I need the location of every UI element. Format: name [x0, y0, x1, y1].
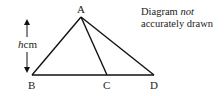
height-label: hcm	[18, 38, 37, 50]
segment-AC	[81, 17, 107, 75]
vertex-label-C: C	[103, 79, 110, 91]
note-line-1: Diagram not	[141, 6, 195, 17]
triangle-diagram: hcm A B C D Diagram not accurately drawn	[0, 0, 224, 96]
vertex-label-A: A	[77, 3, 85, 15]
note-line-2: accurately drawn	[141, 18, 214, 29]
triangle-lines	[32, 17, 154, 75]
segment-AB	[32, 17, 81, 75]
vertex-label-D: D	[150, 79, 158, 91]
vertex-label-B: B	[28, 79, 35, 91]
